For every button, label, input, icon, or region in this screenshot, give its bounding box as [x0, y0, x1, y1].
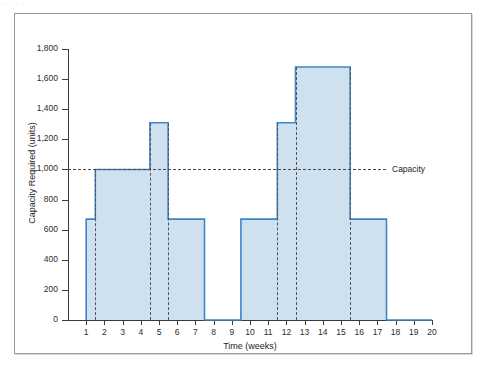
y-axis-title: Capacity Required (units) — [27, 78, 37, 268]
capacity-area-fill — [86, 67, 432, 320]
chart-plot-area: 02004006008001,0001,2001,4001,6001,800 1… — [0, 0, 489, 367]
vertical-marker-line — [168, 123, 169, 320]
figure-stage: · · · · · 02004006008001,0001,2001,4001,… — [0, 0, 489, 367]
vertical-marker-line — [150, 123, 151, 320]
vertical-marker-line — [296, 67, 297, 320]
x-axis-title: Time (weeks) — [68, 341, 432, 351]
vertical-marker-line — [277, 123, 278, 320]
vertical-marker-line — [95, 169, 96, 320]
vertical-marker-line — [350, 67, 351, 320]
capacity-reference-label: Capacity — [392, 164, 425, 174]
capacity-step-series — [0, 0, 489, 367]
capacity-reference-line — [68, 169, 386, 170]
